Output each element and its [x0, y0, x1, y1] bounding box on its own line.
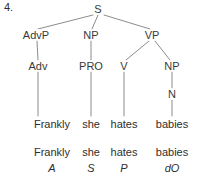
tree-node-v: V: [118, 61, 129, 72]
tree-edge: [155, 41, 170, 60]
tree-node-pro: PRO: [77, 61, 105, 72]
terminal-word: babies: [155, 119, 189, 130]
gloss-word: she: [82, 147, 100, 158]
gloss-function-label: P: [120, 163, 127, 174]
gloss-function-label: S: [87, 163, 94, 174]
terminal-word: Frankly: [33, 119, 71, 130]
tree-edge: [104, 15, 150, 29]
tree-edge: [126, 41, 149, 60]
tree-node-s: S: [92, 4, 103, 15]
tree-edge: [92, 15, 98, 29]
tree-edge: [37, 41, 38, 60]
tree-edge: [38, 15, 93, 29]
gloss-function-label: dO: [165, 163, 180, 174]
gloss-function-label: A: [48, 163, 55, 174]
tree-node-vp: VP: [143, 30, 162, 41]
gloss-word: hates: [111, 147, 138, 158]
tree-node-np: NP: [81, 30, 100, 41]
tree-node-advp: AdvP: [21, 30, 51, 41]
tree-node-np: NP: [162, 61, 181, 72]
terminal-word: she: [81, 119, 101, 130]
gloss-word: Frankly: [34, 147, 70, 158]
gloss-word: babies: [156, 147, 188, 158]
terminal-word: hates: [110, 119, 139, 130]
syntax-tree-diagram: 4. SAdvPNPVPAdvPROVNPN Franklyshehatesba…: [0, 0, 200, 179]
tree-node-adv: Adv: [27, 61, 50, 72]
tree-node-n: N: [166, 89, 178, 100]
